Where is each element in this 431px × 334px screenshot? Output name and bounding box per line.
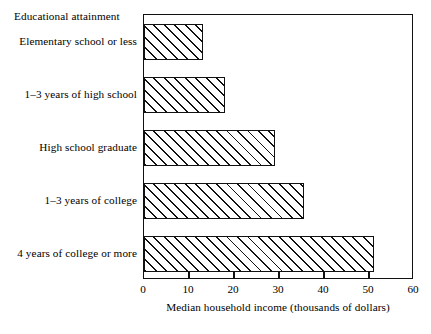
bar-some-college <box>144 183 304 219</box>
x-tick-label-60: 60 <box>407 282 418 296</box>
plot-area <box>143 14 413 279</box>
x-tick-label-0: 0 <box>140 282 146 296</box>
category-axis-labels: Elementary school or less 1–3 years of h… <box>0 14 137 279</box>
x-tick-20 <box>233 271 235 278</box>
category-label-high-school-graduate: High school graduate <box>0 140 137 154</box>
x-tick-label-50: 50 <box>362 282 373 296</box>
bar-some-high-school <box>144 77 225 113</box>
x-tick-label-30: 30 <box>272 282 283 296</box>
x-axis-tick-labels: 0102030405060 <box>143 282 413 298</box>
x-tick-40 <box>323 271 325 278</box>
category-label-some-college: 1–3 years of college <box>0 193 137 207</box>
bar-college-graduate <box>144 236 374 272</box>
category-label-elementary: Elementary school or less <box>0 34 137 48</box>
x-tick-30 <box>278 271 280 278</box>
category-label-some-high-school: 1–3 years of high school <box>0 87 137 101</box>
x-tick-label-20: 20 <box>227 282 238 296</box>
bar-elementary <box>144 24 203 60</box>
x-tick-label-40: 40 <box>317 282 328 296</box>
bar-chart-figure: Educational attainment Elementary school… <box>0 0 431 334</box>
bars-layer <box>144 15 412 278</box>
x-axis-title: Median household income (thousands of do… <box>143 300 413 314</box>
bar-high-school-graduate <box>144 130 275 166</box>
x-tick-label-10: 10 <box>182 282 193 296</box>
category-label-college-graduate: 4 years of college or more <box>0 246 137 260</box>
x-tick-10 <box>188 271 190 278</box>
x-tick-50 <box>368 271 370 278</box>
